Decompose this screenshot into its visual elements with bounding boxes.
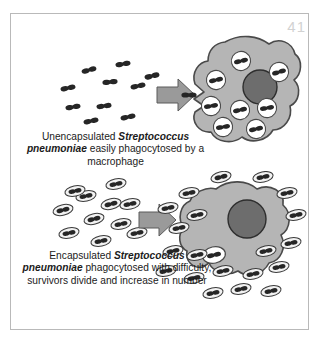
caption-bottom: Encapsulated Streptococcus pneumoniae ph… <box>21 250 213 287</box>
free-encapsulated-bacteria-left <box>52 177 148 248</box>
caption-top: Unencapsulated Streptococcus pneumoniae … <box>23 131 208 168</box>
caption-bottom-lead: Encapsulated <box>49 250 114 261</box>
encapsulated-panel: Encapsulated Streptococcus pneumoniae ph… <box>11 171 308 329</box>
macrophage-top <box>194 36 301 141</box>
free-unencapsulated-bacteria <box>60 60 160 125</box>
macrophage-nucleus-bottom <box>228 200 266 238</box>
figure-page: 41 <box>0 0 320 343</box>
caption-top-lead: Unencapsulated <box>42 131 118 142</box>
unencapsulated-panel: Unencapsulated Streptococcus pneumoniae … <box>11 14 308 171</box>
caption-top-tail: easily phagocytosed by a macrophage <box>87 143 204 166</box>
